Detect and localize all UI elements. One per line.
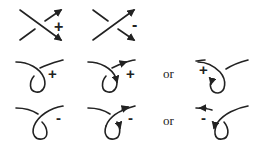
sign-label: +	[199, 61, 208, 78]
sign-label: +	[126, 65, 135, 82]
knot-diagram: + - + + + - - -	[0, 0, 263, 148]
sign-label: -	[56, 109, 61, 126]
sign-label: -	[132, 16, 137, 33]
or-label-row2: or	[163, 66, 174, 82]
sign-label: +	[54, 18, 63, 35]
or-label-row3: or	[163, 113, 174, 129]
sign-label: +	[48, 65, 57, 82]
sign-label: -	[128, 109, 133, 126]
negative-crossing	[93, 10, 134, 40]
sign-label: -	[201, 109, 206, 126]
